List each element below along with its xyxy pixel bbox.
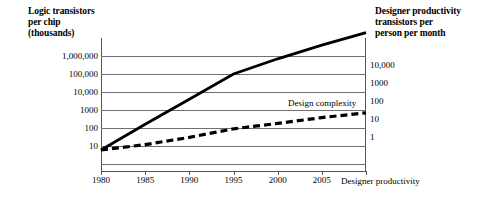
- x-tick-label: 1980: [92, 175, 110, 185]
- series-label-design-complexity: Design complexity: [286, 98, 358, 108]
- left-tick-label: 100: [85, 123, 99, 133]
- x-tick-label: 2005: [313, 175, 331, 185]
- left-tick-label: 1000: [80, 105, 98, 115]
- x-tick-label: 1995: [225, 175, 243, 185]
- plot-area: 1980198519901995200020052010 Design comp…: [101, 38, 366, 172]
- series-label-designer-productivity: Designer productivity: [339, 176, 422, 186]
- right-axis-title: Designer productivity transistors per pe…: [375, 6, 493, 40]
- right-axis-ticks: 10,0001000100101: [370, 38, 430, 172]
- right-tick-label: 1: [370, 132, 375, 142]
- right-tick-label: 100: [370, 96, 384, 106]
- right-tick-label: 10,000: [370, 60, 395, 70]
- productivity-gap-chart: Logic transistors per chip (thousands) D…: [0, 0, 494, 199]
- left-tick-label: 10,000: [73, 87, 98, 97]
- series-line-designer-productivity: [101, 113, 366, 150]
- series-line-design-complexity: [101, 33, 366, 150]
- left-tick-label: 100,000: [69, 69, 98, 79]
- x-tick-label: 1985: [136, 175, 154, 185]
- right-tick-label: 1000: [370, 78, 388, 88]
- left-axis-ticks: 1,000,000100,00010,000100010010: [0, 38, 98, 172]
- left-tick-label: 1,000,000: [62, 51, 98, 61]
- right-tick-label: 10: [370, 114, 379, 124]
- left-axis-title: Logic transistors per chip (thousands): [28, 6, 148, 40]
- left-tick-label: 10: [89, 141, 98, 151]
- x-tick-label: 2000: [269, 175, 287, 185]
- x-tick-label: 1990: [180, 175, 198, 185]
